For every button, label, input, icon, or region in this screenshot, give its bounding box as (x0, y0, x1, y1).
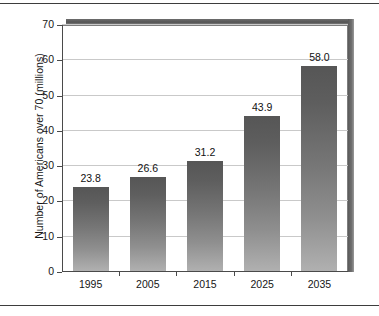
x-axis-category-label: 2035 (308, 278, 331, 290)
bar-value-label: 43.9 (252, 101, 272, 113)
x-axis-tick (119, 272, 120, 276)
bar: 31.2 (187, 161, 223, 271)
gridline (62, 59, 348, 60)
y-axis-tick-label: 30 (42, 159, 54, 171)
x-axis-category-label: 2005 (136, 278, 159, 290)
y-axis-tick-label: 40 (42, 124, 54, 136)
y-axis-title: Number of Americans over 70 (millions) (33, 31, 45, 261)
bar: 26.6 (130, 177, 166, 271)
y-axis-tick-label: 70 (42, 18, 54, 30)
figure-top-rule (0, 3, 379, 4)
bar-value-label: 31.2 (195, 146, 215, 158)
figure-bottom-rule (0, 305, 379, 306)
x-axis-category-label: 1995 (79, 278, 102, 290)
bar-value-label: 58.0 (309, 51, 329, 63)
plot-shadow-right (348, 19, 354, 272)
y-axis-tick (57, 25, 62, 26)
y-axis-tick-label: 60 (42, 53, 54, 65)
bar: 43.9 (244, 116, 280, 271)
bar-value-label: 23.8 (80, 172, 100, 184)
y-axis-tick-label: 20 (42, 194, 54, 206)
x-axis-category-label: 2025 (251, 278, 274, 290)
y-axis-tick (57, 131, 62, 132)
y-axis-tick (57, 237, 62, 238)
y-axis-tick (57, 201, 62, 202)
y-axis-tick (57, 96, 62, 97)
bar: 58.0 (301, 66, 337, 271)
y-axis-line (62, 25, 63, 272)
x-axis-tick (176, 272, 177, 276)
gridline (62, 24, 348, 25)
y-axis-tick-label: 50 (42, 89, 54, 101)
y-axis-tick-label: 0 (48, 265, 54, 277)
x-axis-line (62, 271, 348, 272)
y-axis-tick (57, 166, 62, 167)
plot-area: 23.826.631.243.958.0 010203040506070 (62, 25, 348, 272)
y-axis-tick-label: 10 (42, 230, 54, 242)
x-axis-tick (291, 272, 292, 276)
y-axis-tick (57, 60, 62, 61)
bar-value-label: 26.6 (138, 162, 158, 174)
x-axis-category-label: 2015 (193, 278, 216, 290)
y-axis-tick (57, 272, 62, 273)
bar: 23.8 (73, 187, 109, 271)
x-axis-tick (234, 272, 235, 276)
bar-chart-figure: Number of Americans over 70 (millions) 2… (0, 0, 379, 316)
